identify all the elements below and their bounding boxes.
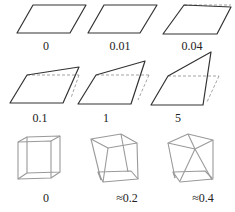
cube-0	[18, 136, 60, 179]
deformation-figure: 0 0.01 0.04 0.1 1 5 0 ≈0.2 ≈0.4	[0, 0, 235, 212]
label-row2-col2: 1	[103, 112, 109, 124]
parallelogram-0	[17, 5, 86, 33]
cube-0.4	[168, 134, 213, 182]
deformed-quad-0.1	[10, 67, 79, 103]
label-row3-col2: ≈0.2	[116, 192, 138, 204]
cube-0.2	[91, 134, 138, 182]
deformed-quad-1	[78, 61, 149, 104]
label-row2-col1: 0.1	[33, 112, 48, 124]
parallelogram-0.04	[163, 5, 231, 34]
label-row1-col2: 0.01	[110, 40, 131, 52]
deformed-quad-5	[151, 52, 219, 105]
label-row2-col3: 5	[175, 112, 181, 124]
label-row1-col1: 0	[43, 40, 49, 52]
label-row3-col3: ≈0.4	[192, 192, 214, 204]
label-row3-col1: 0	[43, 192, 49, 204]
label-row1-col3: 0.04	[182, 40, 203, 52]
figure-drawing	[0, 0, 235, 212]
parallelogram-0.01	[88, 5, 157, 33]
